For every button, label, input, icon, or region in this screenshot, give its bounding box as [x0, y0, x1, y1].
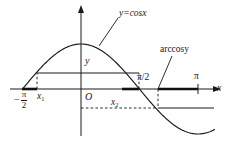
fraction: π 2	[21, 90, 28, 110]
neg-pi-over-two-tick-label: − π 2	[14, 90, 27, 110]
origin-label: O	[85, 92, 92, 102]
cosine-graph-figure: y=cosx arccosy y O x1 x2 π/2 π x − π 2	[0, 0, 228, 147]
x2-tick-label: x2	[111, 98, 118, 108]
inverse-label-arccosy: arccosy	[160, 45, 189, 55]
pi-tick-label: π	[194, 72, 199, 82]
x-axis-label: x	[217, 84, 221, 94]
x1-tick-label: x1	[37, 92, 44, 102]
pi-over-two-tick-label: π/2	[137, 73, 149, 83]
curve-label-ycosx: y=cosx	[119, 9, 147, 19]
fraction-denominator: 2	[21, 101, 28, 110]
fraction-numerator: π	[21, 90, 28, 99]
leader-line-ycosx	[99, 18, 118, 46]
leader-line-arccosy	[158, 56, 172, 89]
axes-group	[10, 5, 221, 136]
minus-sign: −	[14, 95, 20, 105]
chord-value-label-y: y	[85, 56, 89, 66]
y-axis-arrow-icon	[78, 5, 84, 13]
